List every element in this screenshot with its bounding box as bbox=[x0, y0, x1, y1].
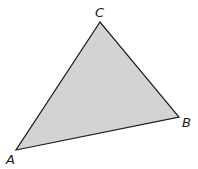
triangle-abc bbox=[16, 22, 179, 150]
triangle-diagram: C B A bbox=[0, 0, 198, 169]
vertex-label-a: A bbox=[5, 152, 15, 167]
vertex-label-b: B bbox=[182, 115, 191, 130]
vertex-label-c: C bbox=[95, 5, 105, 20]
